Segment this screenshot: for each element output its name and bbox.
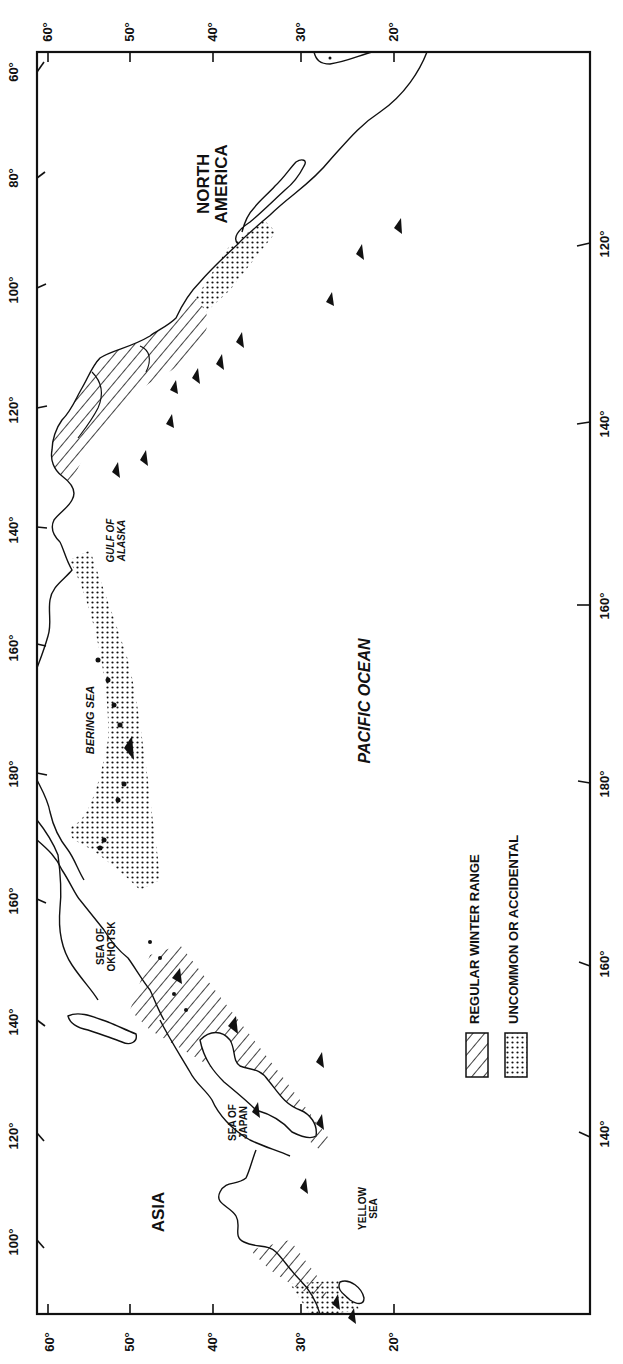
bottom-tick-label: 20° [386,1322,402,1362]
legend-label-uncommon: UNCOMMON OR ACCIDENTAL [506,835,521,1024]
bottom-tick-label: 40° [205,1322,221,1362]
left-tick-label: 120° [6,1116,22,1156]
left-tick-label: 100° [6,270,22,310]
legend-swatch-hatched [466,1033,488,1077]
right-tick-label: 160° [597,944,613,984]
label-north-america: NORTH AMERICA [195,139,231,229]
left-tick-label: 160° [6,628,22,668]
left-tick-label: 120° [6,390,22,430]
north-america-coast [238,52,427,244]
top-tick-label: 20° [386,12,402,52]
top-tick-label: 60° [40,12,56,52]
label-sea-of-okhotsk: SEA OF OKHOTSK [96,907,117,987]
bottom-tick-label: 60° [42,1322,58,1362]
locality-markers [112,218,402,1324]
label-bering-sea: BERING SEA [84,670,96,770]
left-tick-label: 180° [6,754,22,794]
label-yellow-sea: YELLOW SEA [358,1179,379,1239]
left-tick-label: 140° [6,1002,22,1042]
right-tick-label: 140° [597,1114,613,1154]
top-tick-label: 50° [122,12,138,52]
label-asia: ASIA [149,1177,169,1247]
right-tick-label: 160° [597,586,613,626]
label-pacific-ocean: PACIFIC OCEAN [356,636,374,766]
legend-swatch-stippled [505,1033,527,1077]
left-tick-label: 80° [6,158,22,198]
top-tick-label: 40° [205,12,221,52]
range-map: 60° 50° 40° 30° 20° 60° 50° 40° 30° 20° … [0,0,623,1364]
right-tick-label: 120° [597,224,613,264]
left-tick-label: 100° [6,1222,22,1262]
left-tick-label: 160° [6,881,22,921]
left-tick-label: 140° [6,510,22,550]
left-tick-label: 60° [6,52,22,92]
right-tick-label: 180° [597,764,613,804]
bottom-tick-label: 50° [122,1322,138,1362]
top-ticks [48,52,394,62]
label-gulf-of-alaska: GULF OF ALASKA [106,501,127,581]
bottom-tick-label: 30° [293,1322,309,1362]
right-tick-label: 140° [597,404,613,444]
right-ticks [577,243,590,1137]
label-sea-of-japan: SEA OF JAPAN [228,1095,249,1151]
legend-label-regular: REGULAR WINTER RANGE [467,854,482,1024]
top-tick-label: 30° [293,12,309,52]
